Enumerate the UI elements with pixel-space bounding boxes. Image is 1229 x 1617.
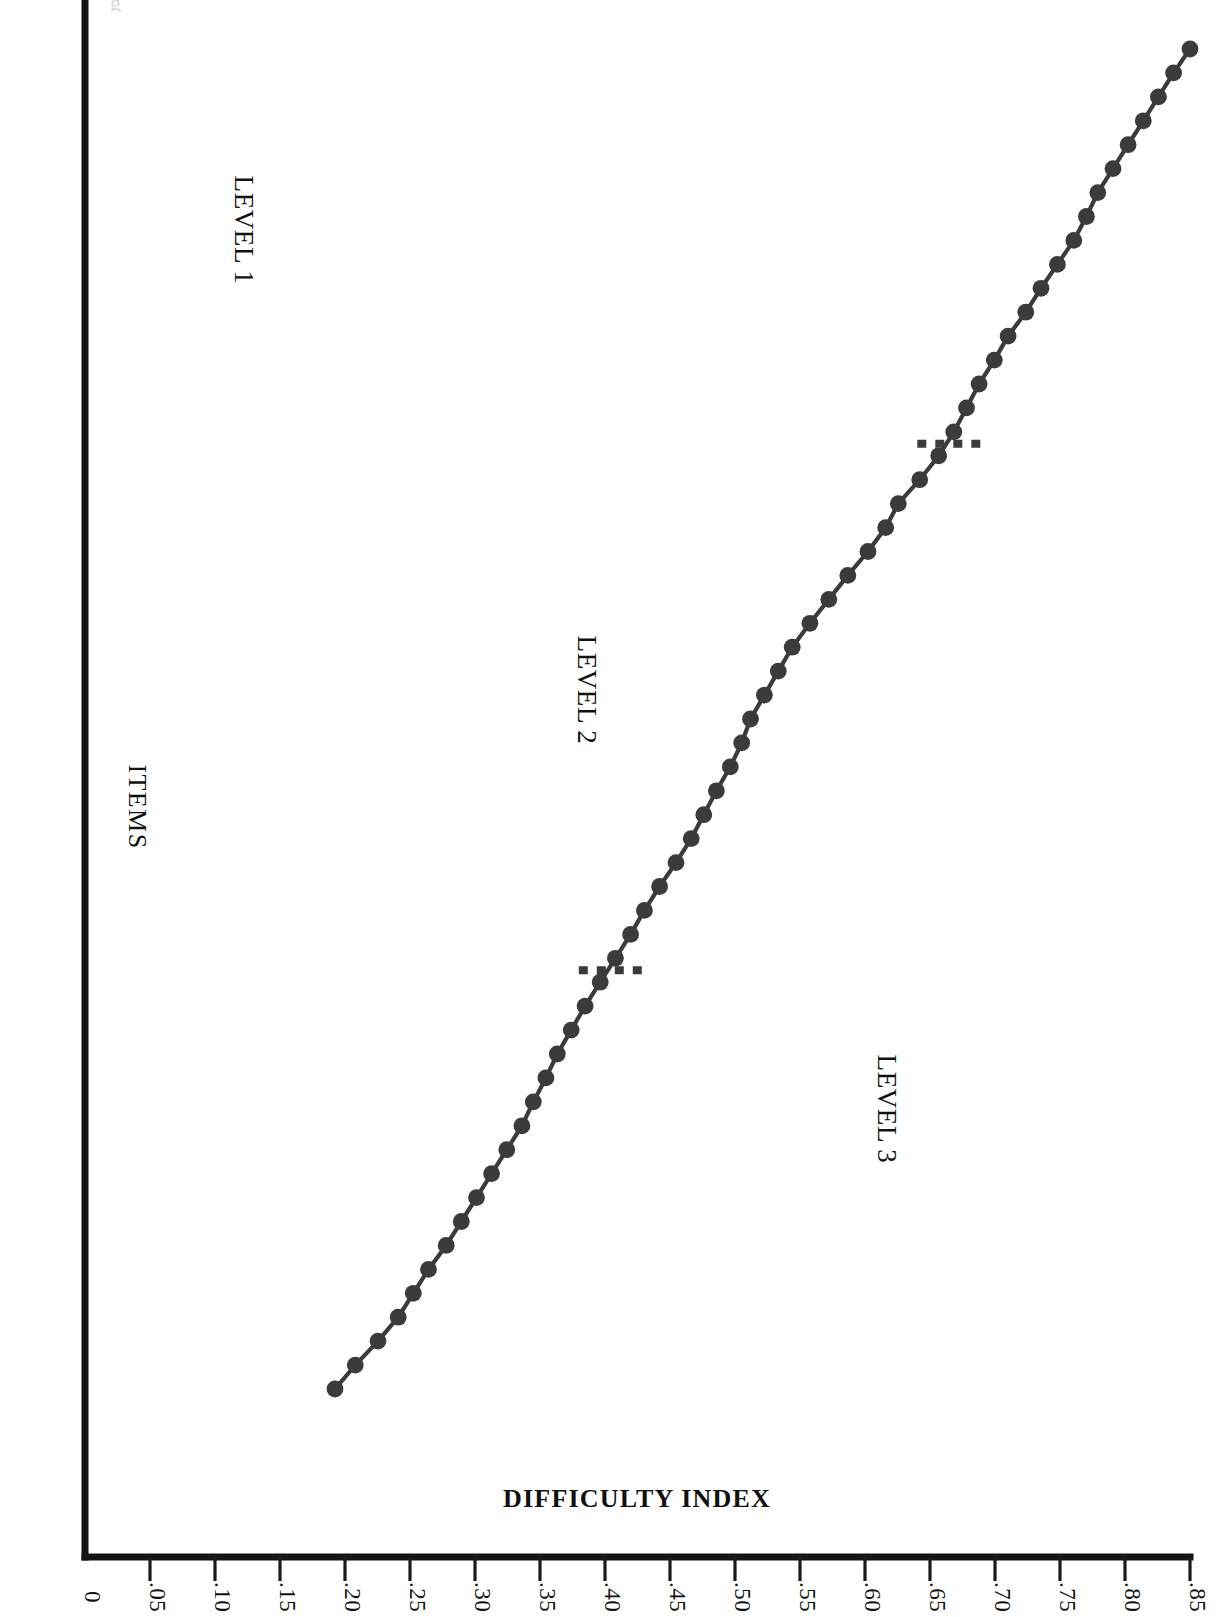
- data-point-marker: [722, 759, 739, 776]
- data-point-marker: [877, 519, 894, 536]
- data-point-marker: [483, 1165, 500, 1182]
- data-point-marker: [911, 471, 928, 488]
- data-point-marker: [784, 639, 801, 656]
- data-point-marker: [1105, 160, 1122, 177]
- data-point-marker: [1135, 112, 1152, 129]
- data-point-marker: [1165, 65, 1182, 82]
- data-point-marker: [622, 926, 639, 943]
- data-point-marker: [695, 806, 712, 823]
- data-point-marker: [1089, 184, 1106, 201]
- data-point-marker: [839, 567, 856, 584]
- tick-label-45: .45: [665, 1582, 690, 1612]
- data-point-marker: [405, 1285, 422, 1302]
- data-point-marker: [370, 1333, 387, 1350]
- data-point-marker: [453, 1213, 470, 1230]
- data-point-marker: [971, 376, 988, 393]
- tick-label-60: .60: [860, 1582, 885, 1612]
- data-point-marker: [420, 1261, 437, 1278]
- data-point-marker: [1150, 89, 1167, 106]
- data-point-marker: [1120, 136, 1137, 153]
- level-labels-group: LEVEL 1 LEVEL 2 LEVEL 3: [229, 176, 902, 1164]
- data-point-marker: [708, 782, 725, 799]
- figure-container: g: [0, 0, 1229, 1617]
- data-point-marker: [930, 447, 947, 464]
- data-point-marker: [538, 1070, 555, 1087]
- tick-label-15: .15: [275, 1582, 300, 1612]
- data-point-marker: [468, 1189, 485, 1206]
- difficulty-index-line-chart: .85 .80 .75 .70 .65 .60 .55 .50 .45 .40 …: [0, 0, 1229, 1617]
- level-3-label: LEVEL 3: [872, 1055, 902, 1164]
- tick-label-25: .25: [405, 1582, 430, 1612]
- x-axis-title: ITEMS: [123, 765, 152, 850]
- data-point-marker: [563, 1022, 580, 1039]
- data-point-marker: [742, 711, 759, 728]
- tick-label-35: .35: [535, 1582, 560, 1612]
- data-point-marker: [860, 543, 877, 560]
- data-point-marker: [802, 615, 819, 632]
- data-point-marker: [1049, 256, 1066, 273]
- tick-label-30: .30: [470, 1582, 495, 1612]
- tick-marks-group: [150, 1557, 1190, 1581]
- tick-label-75: .75: [1055, 1582, 1080, 1612]
- level-2-label: LEVEL 2: [572, 636, 602, 745]
- data-point-marker: [1033, 280, 1050, 297]
- tick-label-70: .70: [990, 1582, 1015, 1612]
- data-point-marker: [986, 352, 1003, 369]
- data-point-marker: [733, 735, 750, 752]
- data-point-marker: [390, 1309, 407, 1326]
- data-point-marker: [514, 1117, 531, 1134]
- data-point-marker: [756, 687, 773, 704]
- rotated-plot-canvas: .85 .80 .75 .70 .65 .60 .55 .50 .45 .40 …: [0, 0, 1229, 1617]
- dividers-group: [574, 444, 981, 970]
- tick-label-55: .55: [795, 1582, 820, 1612]
- tick-label-65: .65: [925, 1582, 950, 1612]
- data-point-marker: [1065, 232, 1082, 249]
- data-point-marker: [549, 1046, 566, 1063]
- data-point-marker: [958, 400, 975, 417]
- data-point-marker: [327, 1381, 344, 1398]
- tick-label-50: .50: [730, 1582, 755, 1612]
- data-point-marker: [945, 424, 962, 441]
- data-point-marker: [668, 854, 685, 871]
- data-point-marker: [651, 878, 668, 895]
- tick-label-80: .80: [1120, 1582, 1145, 1612]
- tick-label-05: .05: [145, 1582, 170, 1612]
- data-point-marker: [890, 495, 907, 512]
- data-point-marker: [438, 1237, 455, 1254]
- data-point-marker: [1017, 304, 1034, 321]
- data-point-marker: [577, 998, 594, 1015]
- tick-label-85: .85: [1185, 1582, 1210, 1612]
- series-group: [327, 41, 1199, 1398]
- tick-labels-group: .85 .80 .75 .70 .65 .60 .55 .50 .45 .40 …: [80, 1582, 1210, 1612]
- y-axis-title: DIFFICULTY INDEX: [503, 1484, 771, 1513]
- level-1-label: LEVEL 1: [229, 176, 259, 285]
- data-point-marker: [1000, 328, 1017, 345]
- tick-label-40: .40: [600, 1582, 625, 1612]
- data-point-marker: [820, 591, 837, 608]
- data-point-marker: [592, 974, 609, 991]
- tick-label-20: .20: [340, 1582, 365, 1612]
- data-point-marker: [607, 950, 624, 967]
- data-point-marker: [1182, 41, 1199, 58]
- series-line-path: [335, 49, 1190, 1389]
- data-point-marker: [347, 1357, 364, 1374]
- data-point-marker: [770, 663, 787, 680]
- tick-label-10: .10: [210, 1582, 235, 1612]
- tick-label-0: 0: [80, 1591, 105, 1603]
- data-point-marker: [525, 1094, 542, 1111]
- data-point-marker: [683, 830, 700, 847]
- data-point-marker: [636, 902, 653, 919]
- data-point-marker: [1078, 208, 1095, 225]
- data-point-marker: [498, 1141, 515, 1158]
